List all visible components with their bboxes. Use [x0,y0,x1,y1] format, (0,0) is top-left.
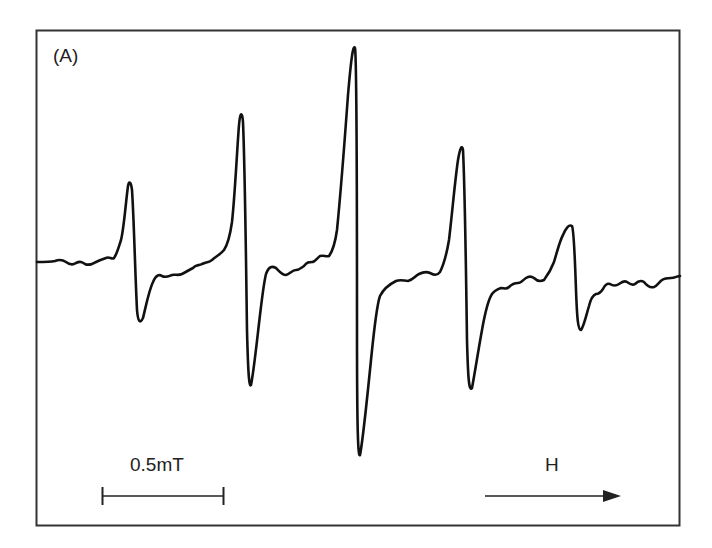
spectrum-trace [37,47,680,455]
scale-bar-label: 0.5mT [130,454,184,476]
epr-spectrum-figure: (A) 0.5mT H [0,0,712,548]
spectrum-plot [0,0,712,548]
field-direction-arrow [485,490,621,502]
panel-label: (A) [53,45,78,67]
field-direction-label: H [545,454,559,476]
scale-bar [102,487,224,505]
